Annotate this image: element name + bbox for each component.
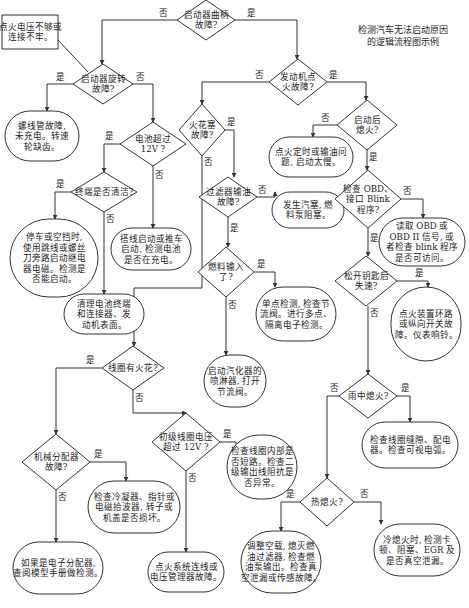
node-rain-stall-decision: 雨中熄火?: [339, 374, 397, 418]
node-text-line: 启动器曲柄: [184, 9, 229, 20]
node-text-line: 否异常。: [244, 477, 280, 488]
edge-label-no: 否: [258, 185, 267, 195]
node-text-line: 初级线圈电压: [159, 431, 213, 442]
edge-stall_after-to-timing: 否: [313, 113, 337, 137]
edge-label-yes: 是: [56, 72, 65, 82]
node-text-line: 故障?: [191, 129, 214, 140]
node-primary12-decision: 初级线圈电压超过 12V ?: [152, 413, 220, 471]
edge-label-yes: 是: [370, 233, 379, 243]
node-crank-decision: 启动器曲柄故障?: [177, 0, 235, 40]
node-text-line: 检查 OBD、: [343, 183, 393, 194]
node-text-line: 否能启动。: [32, 273, 77, 284]
edge-label-no: 否: [330, 383, 339, 393]
edge-dist_fault-to-electronic_dist: 否: [56, 490, 67, 542]
node-text-line: 检查线圈缝隙、配电: [370, 434, 451, 445]
edge-battery12-to-jumpstart: 否: [153, 166, 164, 228]
node-text-line: 检查线圈内部是: [231, 445, 294, 456]
edge-label-no: 否: [155, 170, 164, 180]
node-text-line: 松开钥匙后: [344, 270, 389, 281]
node-text-line: 否短路。检查二: [231, 456, 294, 467]
node-text-line: 题, 启动太慢。: [281, 156, 340, 167]
node-timing-terminal: 点火定时或输油问题, 启动太慢。: [269, 137, 353, 177]
edge-label-yes: 是: [56, 179, 65, 189]
edge-hot_stall-to-idle_adjust: 是: [281, 489, 300, 531]
node-text-line: 器。检查可视电弧。: [370, 444, 451, 455]
node-battery12-decision: 电池超过12V ?: [120, 122, 186, 166]
connector-line: [56, 368, 102, 434]
edge-label-yes: 是: [105, 131, 114, 141]
node-text-line: 使用跳线或螺丝: [23, 242, 86, 253]
node-carb-terminal: 启动汽化器的喷淋器, 打开节流阀。: [204, 355, 266, 407]
node-text-line: 刀旁路启动继电: [23, 252, 86, 263]
node-text-line: 故障?: [92, 83, 115, 94]
node-text-line: 点火电压不够或: [0, 21, 62, 32]
edge-voltage_box-to-starter_spin: [58, 40, 88, 72]
connector-line: [133, 84, 153, 122]
edge-label-no: 否: [188, 473, 197, 483]
edge-label-no: 否: [321, 113, 330, 123]
node-text-line: 程序?: [357, 204, 380, 215]
node-text-line: 12V ?: [141, 144, 166, 154]
node-terminal-clean-decision: 终端是否清洁?: [71, 172, 137, 212]
edge-label-yes: 是: [415, 268, 424, 278]
edge-label-no: 否: [360, 489, 369, 499]
node-coil-spark-decision: 线圈有火花?: [102, 346, 164, 390]
node-condenser-terminal: 检查冷凝器、指针或电磁拾波器, 转子或机盖是否损坏。: [88, 481, 180, 533]
node-read-obd-terminal: 读取 OBD 或OBD II 信号, 或者检查 blink 程序是否可访问。: [379, 218, 465, 266]
edge-rain_stall-to-hot_stall: 否: [327, 383, 339, 478]
node-voltage-box-box: 点火电压不够或连接不牢。: [0, 15, 62, 49]
node-text-line: 故障?: [45, 461, 68, 472]
edge-ign_fault-to-spark_plug: 否: [202, 70, 269, 104]
node-text-line: 未充电。转速: [15, 130, 69, 141]
node-text-line: 读取 OBD 或: [396, 220, 449, 231]
node-single-point-terminal: 单点检测, 检查节流阀。进行多点、隔离电子检测。: [256, 287, 336, 341]
edge-label-yes: 是: [369, 152, 378, 162]
edge-hot_stall-to-cold_stall: 否: [354, 489, 381, 524]
node-text-line: 熄火?: [356, 124, 379, 135]
edge-key_release-to-ignition_switch: 是: [397, 268, 428, 287]
connector-line: [397, 396, 410, 422]
node-ign-fault-decision: 发动机点火故障?: [269, 59, 327, 105]
node-text-line: 终端是否清洁?: [75, 186, 134, 197]
node-text-line: 空泄漏或传感故障。: [241, 572, 322, 583]
connector-line: [102, 20, 177, 64]
node-text-line: 点火装置环路: [399, 308, 453, 319]
node-text-line: 点火系统连线或: [155, 561, 218, 572]
node-text-line: 喷淋器, 打开: [210, 375, 260, 386]
node-text-line: 火花塞: [189, 119, 216, 130]
flowchart: 否是是否是否是否否是是否否是否是否是是否是否是否是否是否是否是否 启动器曲柄故障…: [0, 0, 469, 608]
node-text-line: 线圈有火花?: [108, 362, 158, 373]
edge-rain_stall-to-coil_gap: 是: [397, 383, 410, 422]
node-text-line: 料泵阻塞。: [286, 209, 331, 220]
edge-filter-to-vapor_lock: 否: [257, 185, 275, 197]
connector-line: [58, 40, 88, 72]
connector-line: [47, 84, 73, 111]
node-text-line: 清理电池终端: [77, 298, 131, 309]
node-starter-spin-decision: 启动器旋转故障?: [73, 64, 133, 104]
node-text-line: 失速?: [355, 280, 378, 291]
node-text-line: 电磁拾波器, 转子或: [95, 501, 172, 512]
node-text-line: 冷熄火时, 检测卡: [383, 534, 451, 545]
edge-dist_fault-to-condenser: 是: [90, 449, 126, 481]
node-text-line: 连接不牢。: [8, 31, 53, 42]
node-spark-plug-decision: 火花塞故障?: [179, 104, 225, 156]
node-text-line: 检查冷凝器、指针或: [94, 491, 175, 502]
node-text-line: 油泵输出。检查真: [245, 561, 317, 572]
node-text-line: 是否在充电。: [124, 254, 178, 265]
node-text-line: 流阀。进行多点、: [260, 308, 332, 319]
edge-coil_spark-to-dist_fault: 是: [56, 355, 102, 434]
connector-line: [104, 144, 120, 172]
edge-fuel_input-to-single_point: 是: [254, 259, 275, 287]
node-dist-fault-decision: 机械分配器故障?: [22, 434, 90, 490]
node-text-line: 发动机点: [280, 71, 316, 82]
node-ignition-switch-terminal: 点火装置环路或纵向开关故障。仪表响铃。: [391, 287, 461, 361]
node-text-line: 启动, 检测电池: [121, 243, 180, 254]
node-text-line: 级输出线阻抗是: [231, 466, 294, 477]
edge-label-no: 否: [228, 300, 237, 310]
edge-label-no: 否: [135, 393, 144, 403]
edge-label-yes: 是: [94, 449, 103, 459]
edge-starter_spin-to-solenoid: 是: [47, 72, 73, 111]
node-text-line: 故障?: [217, 196, 240, 207]
node-solenoid-terminal: 螺线管故障,未充电。转速轮缺齿。: [5, 111, 79, 161]
node-text-line: 调整空载, 熄灭燃: [247, 540, 315, 551]
